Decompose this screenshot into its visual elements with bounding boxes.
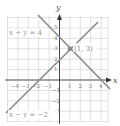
equation-label-x-plus-y: x + y = 4 — [9, 29, 43, 37]
x-tick-label: 1 — [68, 83, 72, 89]
y-tick-label: 4 — [54, 35, 58, 41]
x-tick-label: −1 — [44, 83, 52, 89]
y-axis-arrow-icon — [57, 14, 62, 20]
x-axis-label: x — [113, 76, 118, 85]
equation-label-x-minus-y: x − y = −2 — [9, 111, 48, 119]
x-axis-arrow-icon — [106, 78, 112, 83]
y-tick-label: −2 — [52, 98, 60, 104]
intersection-point-marker — [68, 47, 72, 51]
y-tick-label: 5 — [54, 24, 58, 30]
intersection-point-label: (1, 3) — [74, 45, 93, 53]
x-tick-label: −4 — [11, 83, 20, 89]
x-tick-label: 2 — [79, 83, 83, 89]
y-tick-label: 3 — [54, 45, 58, 51]
y-tick-label: 2 — [54, 56, 58, 62]
x-tick-label: 3 — [89, 83, 93, 89]
y-axis-label: y — [55, 3, 61, 12]
x-tick-label: 4 — [99, 83, 103, 89]
y-tick-label: −1 — [52, 87, 60, 93]
x-tick-label: −3 — [22, 83, 31, 89]
x-tick-label: −2 — [32, 83, 40, 89]
y-tick-label: 1 — [54, 66, 58, 72]
coordinate-graph: y x −4 −3 −2 −1 1 2 3 4 5 4 3 2 1 −1 −2 … — [0, 0, 120, 126]
